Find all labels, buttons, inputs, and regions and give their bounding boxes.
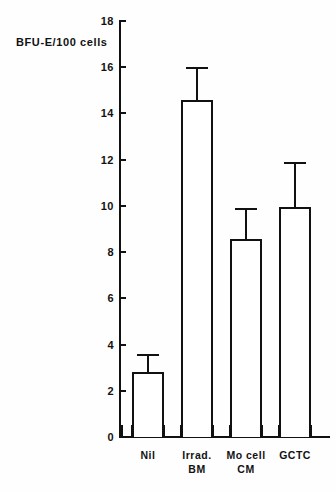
- y-tick-label: 12: [90, 154, 114, 166]
- x-axis-label: GCTC: [265, 448, 325, 462]
- error-bar-stem: [147, 354, 149, 372]
- y-tick-label: 2: [90, 385, 114, 397]
- y-tick-label: 8: [90, 246, 114, 258]
- y-tick-label: 0: [90, 431, 114, 443]
- x-axis-label-line1: Nil: [141, 449, 156, 461]
- bar: [279, 207, 311, 437]
- y-tick-mark: [121, 344, 126, 346]
- y-tick-mark: [121, 297, 126, 299]
- x-axis-label-line2: CM: [216, 462, 276, 476]
- x-axis-label-line1: Irrad.: [182, 449, 211, 461]
- error-bar-cap: [235, 208, 257, 210]
- bar: [181, 100, 213, 437]
- error-bar-stem: [294, 162, 296, 207]
- error-bar-cap: [137, 354, 159, 356]
- error-bar-cap: [284, 162, 306, 164]
- y-tick-label: 16: [90, 61, 114, 73]
- y-tick-mark: [121, 20, 126, 22]
- y-tick-label: 4: [90, 339, 114, 351]
- error-bar-stem: [245, 208, 247, 239]
- bar: [230, 239, 262, 437]
- y-tick-label: 18: [90, 15, 114, 27]
- bar: [132, 372, 164, 437]
- y-axis-line: [119, 20, 121, 438]
- y-tick-label: 14: [90, 107, 114, 119]
- y-tick-mark: [121, 251, 126, 253]
- error-bar-stem: [196, 67, 198, 99]
- y-tick-mark: [121, 66, 126, 68]
- y-tick-mark: [121, 112, 126, 114]
- x-axis-label-line1: Mo cell: [226, 449, 265, 461]
- y-axis-title: BFU-E/100 cells: [16, 36, 108, 48]
- y-tick-label: 10: [90, 200, 114, 212]
- y-tick-mark: [121, 205, 126, 207]
- y-tick-label: 6: [90, 292, 114, 304]
- y-tick-mark: [121, 159, 126, 161]
- y-tick-mark: [121, 390, 126, 392]
- error-bar-cap: [186, 67, 208, 69]
- x-tick-mark: [121, 425, 123, 437]
- bar-chart-figure: BFU-E/100 cells 024681012141618 NilIrrad…: [0, 0, 336, 491]
- x-axis-label-line1: GCTC: [279, 449, 311, 461]
